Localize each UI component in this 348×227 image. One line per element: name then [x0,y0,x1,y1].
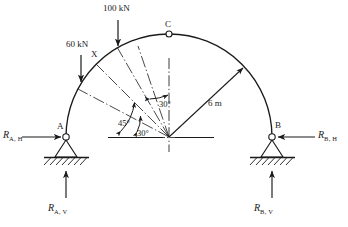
crown-hinge-c [166,31,172,37]
support-a [44,134,89,165]
arch-diagram-figure: 100 kN 60 kN C X A B 30° 45° 30° 6 m RA,… [0,0,348,227]
angle-label-45: 45° [118,119,130,128]
angle-label-30-upper: 30° [159,100,171,109]
point-label-a: A [57,122,64,131]
radius-dimension-line [169,68,243,137]
load-label-60kn: 60 kN [66,40,88,49]
load-label-100kn: 100 kN [103,4,130,13]
reaction-subscript-b-h: B, H [324,135,337,142]
diagram-canvas [0,0,348,227]
reaction-label-a-h: RA, H [3,130,23,143]
reaction-label-a-v: RA, V [48,203,67,216]
reaction-subscript-b-v: B, V [260,208,273,215]
point-label-x: X [91,50,98,59]
radius-label-6m: 6 m [208,99,222,108]
reaction-label-b-h: RB, H [318,130,337,143]
reaction-label-b-v: RB, V [254,203,273,216]
reaction-subscript-a-v: A, V [54,208,67,215]
support-b [250,134,295,165]
reaction-subscript-a-h: A, H [9,135,22,142]
point-label-b: B [275,121,281,130]
angle-label-30-lower: 30° [137,129,149,138]
point-label-c: C [165,20,171,29]
